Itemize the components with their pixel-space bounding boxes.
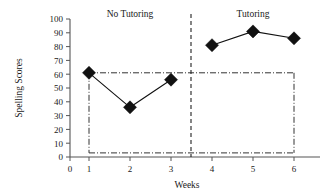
y-tick-label-20: 20 xyxy=(54,125,64,135)
y-axis-title: Spelling Scores xyxy=(14,58,24,118)
chart-figure: 100 90 80 70 60 50 40 30 20 10 0 xyxy=(0,0,324,194)
x-tick-label-5: 5 xyxy=(251,164,256,174)
phase-label-tutoring: Tutoring xyxy=(237,9,270,19)
spelling-scores-line-chart: 100 90 80 70 60 50 40 30 20 10 0 xyxy=(0,0,324,194)
x-tick-label-1: 1 xyxy=(87,164,92,174)
data-point-week-1 xyxy=(83,66,96,79)
y-axis xyxy=(66,19,70,157)
y-tick-label-10: 10 xyxy=(54,139,64,149)
y-tick-label-90: 90 xyxy=(54,28,64,38)
data-point-week-2 xyxy=(124,101,137,114)
y-tick-label-80: 80 xyxy=(54,42,64,52)
data-point-week-6 xyxy=(288,32,301,45)
y-tick-label-50: 50 xyxy=(54,83,64,93)
x-tick-label-6: 6 xyxy=(292,164,297,174)
y-tick-label-40: 40 xyxy=(54,97,64,107)
x-tick-label-4: 4 xyxy=(210,164,215,174)
y-tick-label-70: 70 xyxy=(54,56,64,66)
data-point-week-5 xyxy=(247,25,260,38)
data-point-week-3 xyxy=(165,73,178,86)
phase-label-no-tutoring: No Tutoring xyxy=(107,9,154,19)
x-axis-title: Weeks xyxy=(174,180,199,190)
y-tick-label-30: 30 xyxy=(54,111,64,121)
x-tick-label-0: 0 xyxy=(68,164,73,174)
data-point-week-4 xyxy=(206,39,219,52)
y-tick-label-100: 100 xyxy=(50,14,64,24)
y-tick-label-60: 60 xyxy=(54,70,64,80)
x-tick-label-3: 3 xyxy=(169,164,174,174)
x-axis xyxy=(70,157,320,161)
y-axis-tick-labels: 100 90 80 70 60 50 40 30 20 10 0 xyxy=(50,14,64,162)
x-tick-label-2: 2 xyxy=(128,164,133,174)
y-tick-label-0: 0 xyxy=(59,152,64,162)
x-axis-tick-labels: 0 1 2 3 4 5 6 xyxy=(68,164,297,174)
